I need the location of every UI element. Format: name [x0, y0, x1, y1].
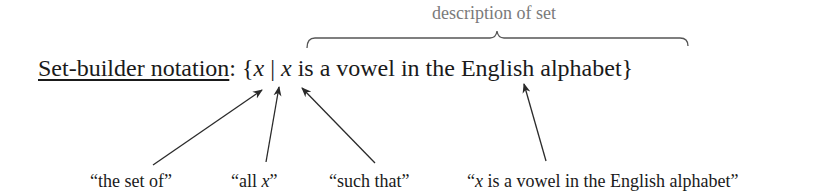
arrow-all-x	[266, 87, 279, 162]
label-such-that: “such that”	[329, 170, 409, 192]
label-condition: “x is a vowel in the English alphabet”	[467, 170, 738, 192]
arrow-condition	[524, 84, 546, 161]
label-all-x: “all x”	[231, 170, 277, 192]
diagram-lines	[0, 0, 833, 196]
arrow-set-of	[153, 90, 262, 165]
overbrace	[307, 31, 688, 48]
arrow-such-that	[302, 88, 375, 163]
label-the-set-of: “the set of”	[90, 170, 172, 192]
